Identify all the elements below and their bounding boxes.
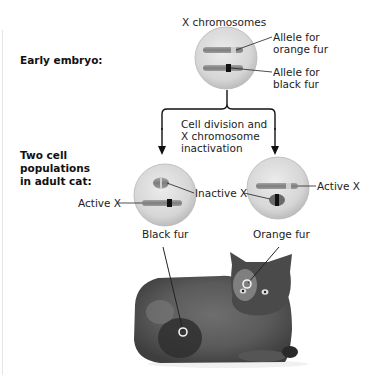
right-cell [244,157,316,219]
x-chromosomes-title: X chromosomes [182,16,266,28]
process-label-2: X chromosome [181,130,260,142]
arrow-left-head [158,146,166,155]
x-chromosome-black [203,65,243,71]
stage-adult-line2: populations [20,162,90,174]
process-label-3: inactivation [181,142,243,154]
embryo-cell [195,27,272,89]
left-active-x-label: Active X [78,197,121,209]
stage-adult-line1: Two cell [20,149,67,161]
orange-fur-label: Orange fur [253,228,310,240]
allele-black-label-2: black fur [273,78,319,90]
process-label-1: Cell division and [181,118,267,130]
arrow-right-head [271,146,279,155]
allele-orange-label-2: orange fur [273,43,328,55]
stage-early-embryo: Early embryo: [20,54,103,66]
stage-adult-line3: in adult cat: [20,175,92,187]
right-active-x-label: Active X [317,180,360,192]
allele-orange-label-1: Allele for [273,31,320,43]
allele-black-label-1: Allele for [273,66,320,78]
left-cell [118,164,196,226]
cat-photo [134,252,308,368]
inactive-x-label: Inactive X [195,187,247,199]
black-fur-label: Black fur [142,228,188,240]
